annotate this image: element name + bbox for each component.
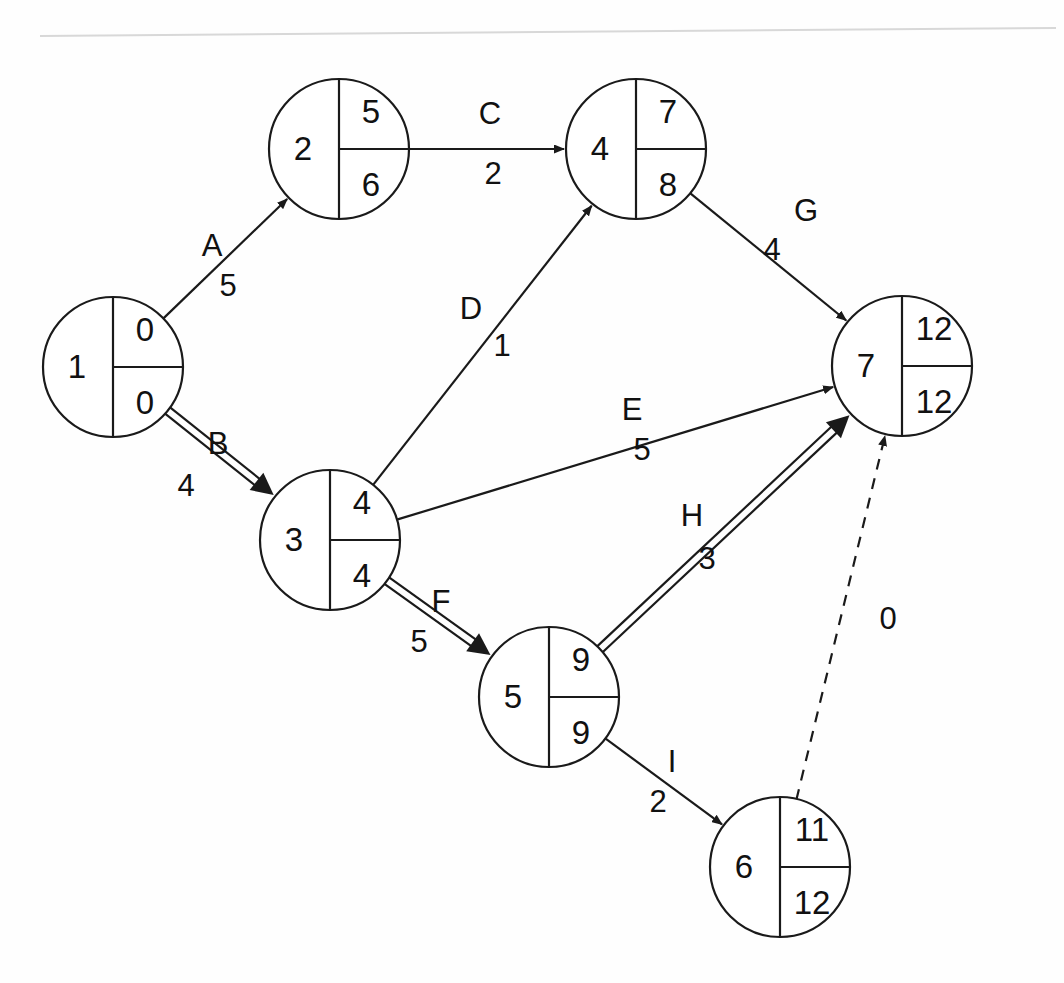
edge-label-G: G: [794, 193, 818, 228]
edge-duration-E: 5: [633, 432, 650, 467]
edge-duration-H: 3: [698, 541, 715, 576]
node-3-label: 3: [285, 521, 303, 558]
node-6-latest-time: 12: [794, 884, 831, 921]
node-2-label: 2: [294, 130, 312, 167]
node-1-latest-time: 0: [136, 384, 154, 421]
edge-F-rail: [384, 583, 475, 649]
edge-duration-I: 2: [649, 784, 666, 819]
node-3-latest-time: 4: [353, 557, 371, 594]
edge-duration-B: 4: [177, 468, 194, 503]
node-1[interactable]: 100: [43, 297, 183, 437]
node-2[interactable]: 256: [269, 79, 409, 219]
node-2-earliest-time: 5: [362, 93, 380, 130]
edge-label-C: C: [479, 96, 501, 131]
edge-duration-D: 1: [493, 328, 510, 363]
node-1-earliest-time: 0: [136, 311, 154, 348]
node-5-earliest-time: 9: [572, 641, 590, 678]
network-diagram-canvas: A5B4C2D1E5F5G4H3I20 10025634447859961112…: [0, 0, 1064, 983]
node-7-label: 7: [857, 347, 875, 384]
edge-label-B: B: [208, 426, 229, 461]
node-5-latest-time: 9: [572, 714, 590, 751]
edge-label-A: A: [202, 228, 223, 263]
edge-duration-F: 5: [410, 624, 427, 659]
edge-label-E: E: [622, 392, 643, 427]
node-4-latest-time: 8: [659, 166, 677, 203]
nodes-layer: 1002563444785996111271212: [43, 79, 972, 937]
edge-H-rail: [597, 423, 835, 647]
node-3[interactable]: 344: [260, 470, 400, 610]
edge-label-H: H: [681, 498, 703, 533]
edge-duration-DUMMY: 0: [879, 601, 896, 636]
node-5[interactable]: 599: [479, 627, 619, 767]
node-5-label: 5: [504, 678, 522, 715]
edge-duration-A: 5: [219, 268, 236, 303]
node-7-latest-time: 12: [916, 383, 953, 420]
node-3-earliest-time: 4: [353, 484, 371, 521]
edge-label-I: I: [668, 744, 677, 779]
node-2-latest-time: 6: [362, 166, 380, 203]
edge-label-D: D: [460, 291, 482, 326]
edge-duration-G: 4: [763, 232, 780, 267]
node-6-label: 6: [735, 848, 753, 885]
edge-duration-C: 2: [484, 156, 501, 191]
edge-DUMMY-line: [796, 436, 885, 800]
node-7[interactable]: 71212: [832, 296, 972, 436]
node-1-label: 1: [68, 348, 86, 385]
node-4-earliest-time: 7: [659, 93, 677, 130]
node-4-label: 4: [591, 130, 609, 167]
page-rule-divider: [40, 28, 1056, 36]
network-diagram-svg: A5B4C2D1E5F5G4H3I20 10025634447859961112…: [0, 0, 1064, 983]
node-7-earliest-time: 12: [916, 310, 953, 347]
edge-E-line: [396, 387, 833, 520]
edge-D-line: [373, 206, 592, 486]
node-6-earliest-time: 11: [795, 811, 829, 848]
node-6[interactable]: 61112: [710, 797, 850, 937]
edge-label-F: F: [432, 584, 451, 619]
node-4[interactable]: 478: [566, 79, 706, 219]
